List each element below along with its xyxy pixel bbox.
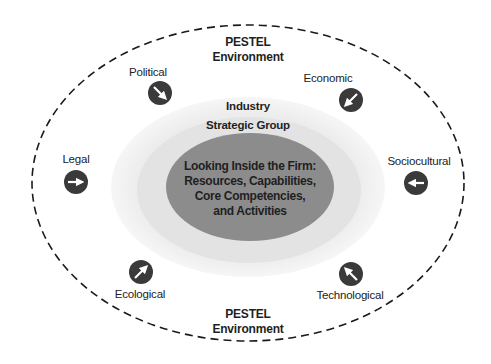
pestel-bottom-label-line2: Environment — [212, 322, 283, 336]
arrow-up-right-icon — [129, 260, 153, 284]
factor-legal: Legal — [62, 153, 89, 194]
pestel-bottom-label-line1: PESTEL — [225, 307, 270, 321]
core-label-line4: and Activities — [213, 204, 287, 218]
factor-ecological: Ecological — [115, 260, 165, 300]
arrow-left-icon — [404, 171, 428, 195]
industry-label: Industry — [226, 100, 271, 112]
factor-label-sociocultural: Sociocultural — [387, 155, 450, 167]
factor-label-legal: Legal — [62, 153, 89, 165]
arrow-down-left-icon — [339, 88, 363, 112]
core-label-line1: Looking Inside the Firm: — [184, 159, 316, 173]
factor-label-ecological: Ecological — [115, 288, 165, 300]
factor-label-technological: Technological — [316, 289, 383, 301]
factor-technological: Technological — [316, 262, 383, 301]
factor-label-political: Political — [129, 66, 167, 78]
core-label-line3: Core Competencies, — [195, 189, 306, 203]
pestel-top-label-line1: PESTEL — [225, 35, 270, 49]
pestel-diagram: PESTEL Environment PESTEL Environment In… — [0, 0, 491, 364]
arrow-right-icon — [64, 170, 88, 194]
strategic-group-label: Strategic Group — [206, 119, 290, 131]
core-label-line2: Resources, Capabilities, — [184, 174, 316, 188]
factor-label-economic: Economic — [304, 72, 353, 84]
factor-political: Political — [129, 66, 172, 105]
arrow-down-right-icon — [148, 81, 172, 105]
factor-sociocultural: Sociocultural — [387, 155, 450, 195]
pestel-top-label-line2: Environment — [212, 50, 283, 64]
factor-economic: Economic — [304, 72, 363, 112]
arrow-up-left-icon — [339, 262, 363, 286]
